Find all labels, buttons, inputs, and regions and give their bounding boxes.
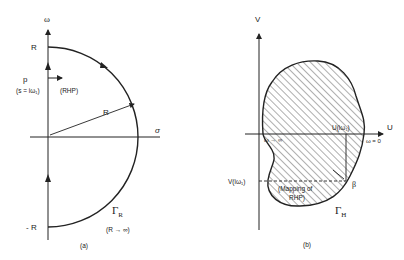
- arc-arrow-icon: [100, 62, 108, 68]
- sigma-axis-label: σ: [155, 126, 161, 135]
- caption-b: (b): [303, 241, 311, 249]
- label-radius: R: [103, 108, 109, 117]
- label-u-iw1: U(iω₁): [332, 124, 350, 132]
- label-r-limit: (R → ∞): [106, 226, 130, 234]
- label-p: p: [23, 75, 28, 84]
- panel-a: ω σ R - R p (s = iω₁) (RHP) R ΓR (R → ∞)…: [16, 14, 161, 250]
- u-axis-label: U: [387, 123, 393, 132]
- label-v-iw1: V(iω₁): [228, 178, 245, 186]
- label-rhp: (RHP): [60, 87, 78, 95]
- caption-a: (a): [80, 242, 88, 250]
- label-s: (s = iω₁): [16, 87, 40, 95]
- radius-line: [50, 104, 134, 135]
- axis-up-arrow-icon: [45, 174, 51, 182]
- label-omega-zero: ω = 0: [366, 138, 382, 144]
- label-omega-inf: ω → ∞: [264, 137, 282, 143]
- figure: ω σ R - R p (s = iω₁) (RHP) R ΓR (R → ∞)…: [0, 0, 404, 260]
- panel-b: V U ω → ∞ ω = 0 U(iω₁) V(iω₁) (Mapping o…: [228, 15, 393, 249]
- label-gamma-h: ΓH: [335, 204, 346, 219]
- label-mapping-2: RHP): [289, 194, 305, 202]
- label-mapping-1: (Mapping of: [278, 185, 313, 193]
- omega-axis-label: ω: [44, 14, 50, 24]
- label-r-top: R: [31, 43, 37, 52]
- axis-up-arrow-2-icon: [45, 62, 51, 70]
- label-r-bottom: - R: [26, 223, 37, 232]
- label-gamma-r: ΓR: [112, 204, 123, 219]
- v-axis-label: V: [255, 15, 261, 24]
- label-beta: β: [352, 180, 356, 189]
